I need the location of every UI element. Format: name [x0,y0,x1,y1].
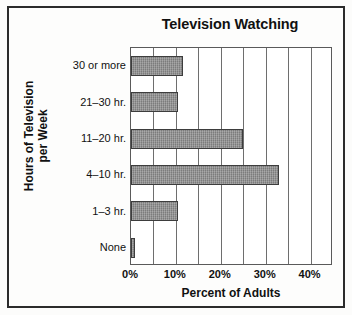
bar-row [131,48,331,84]
category-label: None [42,241,126,253]
category-label: 21–30 hr. [42,96,126,108]
x-tick-label: 0% [110,268,150,280]
bar [131,165,279,185]
bar-series [131,48,331,264]
x-axis-tick-labels: 0%10%20%30%40% [130,268,332,284]
bar-row [131,230,331,266]
category-label: 4–10 hr. [42,168,126,180]
bar-row [131,157,331,193]
bar-row [131,84,331,120]
bar [131,129,243,149]
bar [131,238,135,258]
bar [131,201,178,221]
category-label: 1–3 hr. [42,205,126,217]
bar-row [131,121,331,157]
x-tick-label: 10% [155,268,195,280]
x-axis-title: Percent of Adults [130,286,332,300]
x-tick-label: 20% [200,268,240,280]
x-tick-label: 40% [290,268,330,280]
bar-row [131,193,331,229]
x-tick-label: 30% [245,268,285,280]
bar [131,92,178,112]
plot-area [130,47,332,265]
bar [131,56,183,76]
chart-title: Television Watching [120,16,340,32]
category-axis-labels: 30 or more21–30 hr.11–20 hr.4–10 hr.1–3 … [42,47,126,265]
category-label: 11–20 hr. [42,132,126,144]
chart-figure: Television Watching Hours of Television … [0,0,352,315]
category-label: 30 or more [42,59,126,71]
y-axis-title-line-1: Hours of Television [22,36,36,236]
